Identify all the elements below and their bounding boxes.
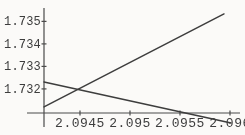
plot-svg: 2.09452.0952.09552.0961.7321.7331.7341.7…	[0, 0, 245, 135]
x-tick-label: 2.0955	[155, 116, 205, 131]
y-tick-label: 1.735	[4, 15, 41, 29]
y-tick-label: 1.732	[4, 83, 41, 97]
y-tick-label: 1.734	[4, 38, 41, 52]
chart-figure: 2.09452.0952.09552.0961.7321.7331.7341.7…	[0, 0, 245, 135]
x-tick-label: 2.095	[109, 116, 151, 131]
x-tick-label: 2.0945	[55, 116, 105, 131]
y-tick-label: 1.733	[4, 60, 41, 74]
x-tick-label: 2.096	[209, 116, 245, 131]
rising-line	[44, 14, 224, 107]
